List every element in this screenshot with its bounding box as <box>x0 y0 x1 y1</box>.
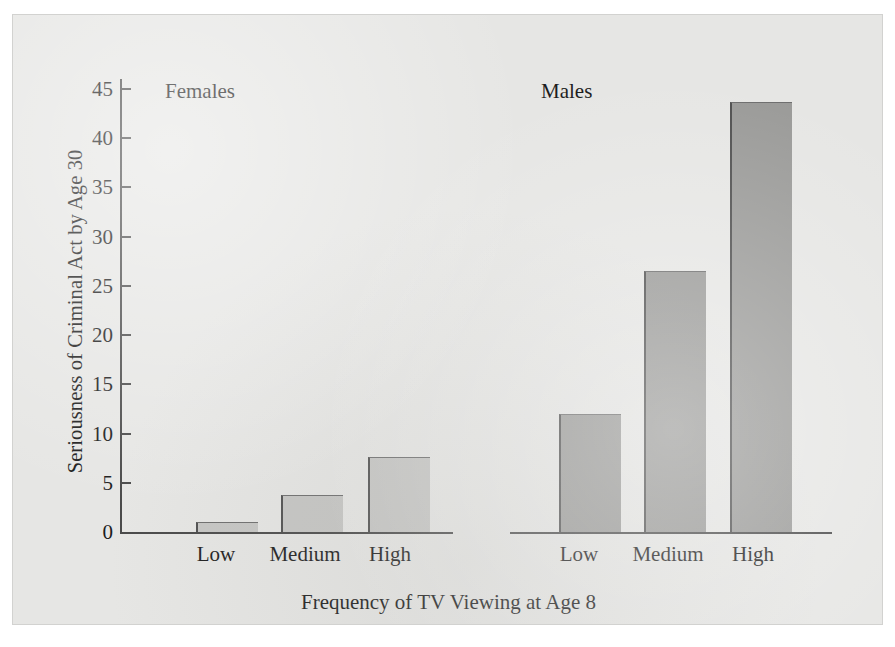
bar-males-high <box>730 102 792 532</box>
y-axis-tick-mark <box>120 383 131 385</box>
x-axis-title: Frequency of TV Viewing at Age 8 <box>13 590 884 615</box>
y-axis-tick-labels: 051015202530354045 <box>61 15 113 624</box>
plot-area: Seriousness of Criminal Act by Age 30 05… <box>13 15 882 624</box>
y-axis-tick-mark <box>120 433 131 435</box>
y-axis-tick-mark <box>120 236 131 238</box>
y-axis-line <box>120 79 122 533</box>
y-axis-tick-mark <box>120 285 131 287</box>
x-tick-females-medium: Medium <box>269 542 340 567</box>
bar-females-low <box>196 522 258 532</box>
y-axis-tick-label: 40 <box>71 128 113 149</box>
x-tick-males-medium: Medium <box>632 542 703 567</box>
y-axis-tick-label: 35 <box>71 177 113 198</box>
y-axis-tick-mark <box>120 482 131 484</box>
y-axis-tick-mark <box>120 88 131 90</box>
bar-males-low <box>559 414 621 532</box>
x-tick-males-low: Low <box>560 542 599 567</box>
y-axis-tick-label: 0 <box>71 522 113 543</box>
panel-title-males: Males <box>541 79 592 104</box>
bar-males-medium <box>644 271 706 532</box>
y-axis-tick-label: 10 <box>71 423 113 444</box>
figure-panel: Seriousness of Criminal Act by Age 30 05… <box>12 14 883 625</box>
y-axis-tick-label: 25 <box>71 275 113 296</box>
y-axis-tick-mark <box>120 186 131 188</box>
x-tick-females-low: Low <box>197 542 236 567</box>
y-axis-tick-label: 30 <box>71 226 113 247</box>
bar-females-high <box>368 457 430 532</box>
y-axis-tick-mark <box>120 137 131 139</box>
y-axis-tick-mark <box>120 334 131 336</box>
bar-females-medium <box>281 495 343 532</box>
x-tick-females-high: High <box>369 542 411 567</box>
y-axis-tick-label: 15 <box>71 374 113 395</box>
baseline-females <box>120 532 453 534</box>
y-axis-tick-label: 20 <box>71 325 113 346</box>
x-tick-males-high: High <box>732 542 774 567</box>
panel-title-females: Females <box>165 79 235 104</box>
y-axis-tick-label: 45 <box>71 78 113 99</box>
y-axis-tick-label: 5 <box>71 472 113 493</box>
baseline-males <box>510 532 832 534</box>
